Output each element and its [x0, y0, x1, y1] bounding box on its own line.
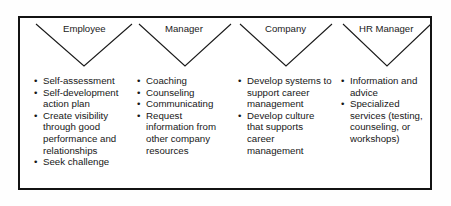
list-item-text: Information and advice: [350, 75, 430, 98]
list-item-text: Communicating: [146, 98, 230, 110]
list-item: • Seek challenge: [34, 156, 127, 168]
bullet-icon: •: [341, 98, 344, 110]
bullet-icon: •: [137, 110, 140, 122]
career-roles-figure: Employee • Self-assessment • Self-develo…: [0, 0, 451, 206]
list-item: • Self-development action plan: [34, 87, 127, 110]
list-item: • Create visibility through good perform…: [34, 110, 127, 156]
list-item-text: Develop culture that supports career man…: [247, 110, 333, 156]
bullet-icon: •: [34, 75, 37, 87]
list-item-text: Create visibility through good performan…: [43, 110, 127, 156]
list-item-text: Counseling: [146, 87, 230, 99]
chevron-header-hr-manager: HR Manager: [341, 18, 430, 68]
role-title-employee: Employee: [61, 23, 108, 35]
figure-frame: Employee • Self-assessment • Self-develo…: [18, 16, 432, 190]
bullet-icon: •: [238, 75, 241, 87]
role-column-employee: Employee • Self-assessment • Self-develo…: [20, 18, 127, 188]
list-item-text: Develop systems to support career manage…: [247, 75, 333, 110]
bullet-icon: •: [137, 98, 140, 110]
role-title-manager: Manager: [163, 23, 205, 35]
list-item: • Request information from other company…: [137, 110, 230, 156]
list-item: • Information and advice: [341, 75, 430, 98]
list-item-text: Request information from other company r…: [146, 110, 230, 156]
bullet-icon: •: [34, 156, 37, 168]
chevron-header-employee: Employee: [34, 18, 127, 68]
responsibility-list-employee: • Self-assessment • Self-development act…: [34, 75, 127, 168]
bullet-icon: •: [34, 110, 37, 122]
role-column-manager: Manager • Coaching • Counseling • Commun…: [127, 18, 230, 188]
list-item: • Communicating: [137, 98, 230, 110]
bullet-icon: •: [137, 87, 140, 99]
list-item: • Counseling: [137, 87, 230, 99]
role-column-hr-manager: HR Manager • Information and advice • Sp…: [333, 18, 430, 188]
bullet-icon: •: [137, 75, 140, 87]
list-item-text: Self-assessment: [43, 75, 127, 87]
responsibility-list-hr-manager: • Information and advice • Specialized s…: [341, 75, 430, 145]
role-column-company: Company • Develop systems to support car…: [230, 18, 333, 188]
list-item-text: Seek challenge: [43, 156, 127, 168]
list-item-text: Coaching: [146, 75, 230, 87]
bullet-icon: •: [341, 75, 344, 87]
role-title-hr-manager: HR Manager: [357, 23, 415, 35]
role-columns: Employee • Self-assessment • Self-develo…: [20, 18, 430, 188]
list-item: • Coaching: [137, 75, 230, 87]
bullet-icon: •: [238, 110, 241, 122]
list-item: • Specialized services (testing, counsel…: [341, 98, 430, 144]
list-item: • Develop culture that supports career m…: [238, 110, 333, 156]
responsibility-list-manager: • Coaching • Counseling • Communicating …: [137, 75, 230, 156]
list-item: • Self-assessment: [34, 75, 127, 87]
responsibility-list-company: • Develop systems to support career mana…: [238, 75, 333, 156]
chevron-header-manager: Manager: [137, 18, 230, 68]
list-item: • Develop systems to support career mana…: [238, 75, 333, 110]
list-item-text: Self-development action plan: [43, 87, 127, 110]
chevron-header-company: Company: [238, 18, 333, 68]
list-item-text: Specialized services (testing, counselin…: [350, 98, 430, 144]
bullet-icon: •: [34, 87, 37, 99]
role-title-company: Company: [263, 23, 308, 35]
